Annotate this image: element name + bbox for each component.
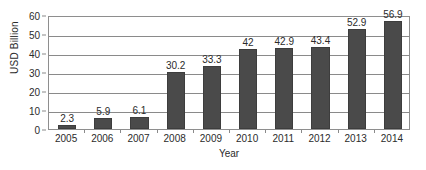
plot-area: 2.35.96.130.233.34242.943.452.956.9	[48, 16, 410, 130]
bar-value-label: 52.9	[339, 17, 375, 28]
bar	[239, 49, 257, 129]
x-tick-label: 2007	[127, 133, 149, 144]
x-tick-label: 2010	[236, 133, 258, 144]
x-tick-label: 2011	[273, 133, 295, 144]
x-tick-label: 2009	[200, 133, 222, 144]
y-tick-label: 50	[29, 30, 40, 41]
x-tick-label: 2006	[91, 133, 113, 144]
x-tick-mark	[157, 130, 158, 133]
bar-chart: USD Billion 0102030405060 2.35.96.130.23…	[0, 0, 426, 170]
y-tick-mark	[42, 16, 46, 17]
x-tick-mark	[193, 130, 194, 133]
y-tick-mark	[42, 92, 46, 93]
y-tick-label: 60	[29, 11, 40, 22]
bar	[275, 48, 293, 130]
x-tick-label: 2005	[55, 133, 77, 144]
x-tick-mark	[265, 130, 266, 133]
bar-series: 2.35.96.130.233.34242.943.452.956.9	[49, 17, 409, 129]
bar-value-label: 5.9	[85, 106, 121, 117]
bar-value-label: 30.2	[158, 60, 194, 71]
bar-value-label: 43.4	[302, 35, 338, 46]
bar	[167, 72, 185, 129]
bar-slot	[339, 17, 375, 129]
bar-value-label: 42.9	[266, 36, 302, 47]
bar	[311, 47, 329, 129]
x-tick-mark	[120, 130, 121, 133]
bar-slot	[194, 17, 230, 129]
bar	[348, 29, 366, 130]
y-tick-mark	[42, 35, 46, 36]
x-axis-title: Year	[48, 148, 410, 159]
y-tick-label: 40	[29, 49, 40, 60]
bar	[384, 21, 402, 129]
bar-slot	[266, 17, 302, 129]
y-tick-mark	[42, 130, 46, 131]
y-tick-label: 0	[34, 125, 40, 136]
x-tick-label: 2008	[164, 133, 186, 144]
x-tick-label: 2012	[308, 133, 330, 144]
bar-slot	[158, 17, 194, 129]
bar-value-label: 56.9	[375, 9, 411, 20]
y-axis-ticks: 0102030405060	[0, 16, 46, 130]
x-tick-label: 2014	[381, 133, 403, 144]
x-tick-mark	[229, 130, 230, 133]
bar-value-label: 2.3	[49, 113, 85, 124]
y-tick-mark	[42, 73, 46, 74]
x-tick-mark	[374, 130, 375, 133]
x-tick-mark	[338, 130, 339, 133]
bar	[58, 125, 76, 129]
y-tick-mark	[42, 111, 46, 112]
x-tick-label: 2013	[345, 133, 367, 144]
x-tick-mark	[301, 130, 302, 133]
bar	[203, 66, 221, 129]
bar-value-label: 33.3	[194, 54, 230, 65]
bar-value-label: 6.1	[121, 105, 157, 116]
y-tick-mark	[42, 54, 46, 55]
bar-slot	[230, 17, 266, 129]
bar	[94, 118, 112, 129]
x-tick-mark	[84, 130, 85, 133]
bar-value-label: 42	[230, 37, 266, 48]
bar-slot	[375, 17, 411, 129]
y-tick-label: 20	[29, 87, 40, 98]
x-axis-ticks: 2005200620072008200920102011201220132014	[48, 130, 410, 148]
bar	[130, 117, 148, 129]
y-tick-label: 10	[29, 106, 40, 117]
y-tick-label: 30	[29, 68, 40, 79]
